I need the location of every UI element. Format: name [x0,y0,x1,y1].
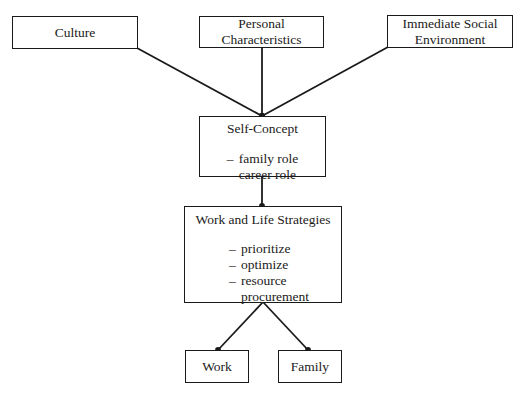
node-immediate-label-line2: Environment [415,32,486,48]
list-item-text: prioritize [241,241,290,256]
edge-immediate-to-self [262,47,388,116]
list-item-text: procurement [229,289,309,304]
node-immediate-label-line1: Immediate Social [403,16,498,32]
node-work-label: Work [202,359,232,375]
node-culture: Culture [12,16,138,49]
list-item: –optimize [229,257,309,273]
list-item-continuation: procurement [229,289,309,305]
node-work: Work [185,350,249,383]
node-family-label: Family [291,359,329,375]
bullet-dash: – [229,257,241,273]
strategies-list: –prioritize –optimize –resource procurem… [229,241,309,305]
node-self-concept-label: Self-Concept [227,121,298,137]
bullet-dash: – [227,151,239,167]
node-strategies-label: Work and Life Strategies [196,212,331,228]
node-family: Family [278,350,342,383]
edge-culture-to-self [137,48,262,116]
bullet-dash: – [227,167,239,183]
edge-strategies-to-family [263,302,308,350]
bullet-dash: – [229,241,241,257]
list-item-text: resource [241,273,287,288]
node-personal-label-line1: Personal [238,16,285,32]
list-item: –family role [227,151,299,167]
node-personal-label-line2: Characteristics [221,32,301,48]
self-concept-list: –family role –career role [227,151,299,183]
node-personal-characteristics: Personal Characteristics [199,16,324,48]
node-self-concept: Self-Concept –family role –career role [199,116,326,177]
node-culture-label: Culture [55,25,96,41]
list-item-text: optimize [241,257,288,272]
list-item: –resource [229,273,309,289]
list-item: –career role [227,167,299,183]
list-item-text: career role [239,167,296,182]
bullet-dash: – [229,273,241,289]
node-immediate-social-environment: Immediate Social Environment [387,15,513,48]
connector-layer [0,0,524,394]
list-item-text: family role [239,151,299,166]
list-item: –prioritize [229,241,309,257]
edge-strategies-to-work [218,302,263,350]
node-work-life-strategies: Work and Life Strategies –prioritize –op… [184,206,342,303]
